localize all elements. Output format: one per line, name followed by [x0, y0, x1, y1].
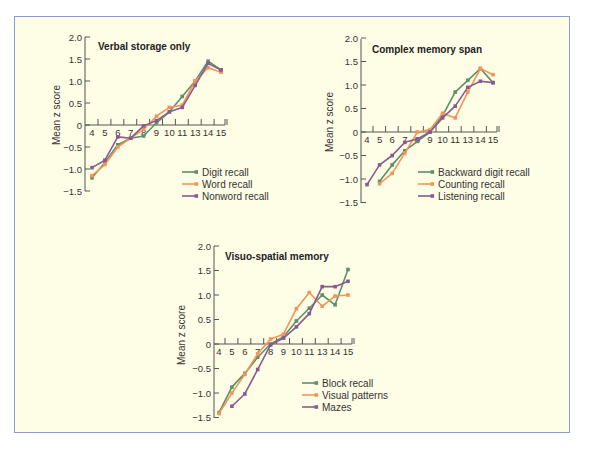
- x-tick-label: 13: [190, 127, 201, 138]
- data-point: [155, 114, 159, 118]
- data-point: [333, 303, 337, 307]
- chart-3: 2.01.51.00.50−0.5−1.0−1.5456789101113141…: [176, 241, 388, 424]
- legend-label: Word recall: [202, 179, 252, 190]
- data-point: [491, 73, 495, 77]
- data-point: [282, 332, 286, 336]
- x-tick-label: 15: [216, 127, 227, 138]
- charts-canvas: 2.01.51.00.50−0.5−1.0−1.5456789101113141…: [0, 0, 590, 452]
- y-tick-label: −1.5: [63, 186, 82, 197]
- y-tick-label: 0.5: [345, 103, 358, 114]
- data-point: [479, 79, 483, 83]
- y-axis-label: Mean z score: [324, 92, 335, 152]
- data-point: [390, 154, 394, 158]
- x-tick-label: 5: [229, 346, 234, 357]
- x-tick-label: 14: [330, 346, 341, 357]
- data-point: [103, 163, 107, 167]
- data-point: [217, 412, 221, 416]
- legend-label: Visual patterns: [322, 390, 388, 401]
- y-tick-label: −1.5: [192, 412, 211, 423]
- y-tick-label: 0: [353, 127, 358, 138]
- x-tick-label: 4: [89, 127, 94, 138]
- data-point: [453, 90, 457, 94]
- legend-label: Listening recall: [438, 191, 505, 202]
- legend-label: Digit recall: [202, 167, 249, 178]
- x-tick-label: 9: [281, 346, 286, 357]
- data-point: [466, 79, 470, 83]
- data-point: [346, 268, 350, 272]
- data-point: [256, 368, 260, 372]
- legend-label: Counting recall: [438, 179, 505, 190]
- x-tick-label: 6: [390, 134, 395, 145]
- data-point: [365, 183, 369, 187]
- data-point: [230, 404, 234, 408]
- y-tick-label: 2.0: [345, 33, 358, 44]
- y-axis-label: Mean z score: [176, 305, 187, 365]
- y-tick-label: 0.5: [198, 314, 211, 325]
- x-tick-label: 14: [475, 134, 486, 145]
- x-tick-label: 11: [450, 134, 460, 145]
- data-point: [168, 106, 172, 110]
- data-point: [295, 325, 299, 329]
- legend-label: Nonword recall: [202, 191, 269, 202]
- y-tick-label: 0.5: [69, 98, 82, 109]
- data-point: [269, 337, 273, 341]
- x-tick-label: 5: [102, 127, 107, 138]
- data-point: [403, 151, 407, 155]
- data-point: [193, 84, 197, 88]
- data-point: [416, 130, 420, 134]
- x-tick-label: 13: [317, 346, 328, 357]
- data-point: [466, 86, 470, 90]
- data-point: [295, 307, 299, 311]
- y-tick-label: 1.0: [69, 76, 82, 87]
- x-tick-label: 10: [437, 134, 448, 145]
- data-point: [466, 90, 470, 94]
- data-point: [428, 130, 432, 134]
- data-point: [491, 81, 495, 85]
- data-point: [453, 116, 457, 120]
- y-tick-label: 1.5: [198, 265, 211, 276]
- y-tick-label: −0.5: [63, 142, 82, 153]
- chart-title: Verbal storage only: [98, 41, 191, 52]
- data-point: [295, 319, 299, 323]
- data-point: [256, 352, 260, 356]
- x-tick-label: 11: [304, 346, 314, 357]
- data-point: [378, 182, 382, 186]
- y-tick-label: 0: [77, 120, 82, 131]
- y-tick-label: 1.5: [69, 54, 82, 65]
- y-tick-label: 1.0: [345, 80, 358, 91]
- x-tick-label: 9: [427, 134, 432, 145]
- data-point: [390, 172, 394, 176]
- data-point: [390, 163, 394, 167]
- data-point: [142, 134, 146, 138]
- data-point: [308, 312, 312, 316]
- data-point: [441, 111, 445, 115]
- data-point: [90, 174, 94, 178]
- data-point: [129, 136, 133, 140]
- x-tick-label: 9: [154, 127, 159, 138]
- data-point: [320, 285, 324, 289]
- x-tick-label: 13: [463, 134, 474, 145]
- data-point: [142, 124, 146, 128]
- y-axis-label: Mean z score: [51, 85, 62, 145]
- data-point: [90, 166, 94, 170]
- legend-label: Mazes: [322, 402, 351, 413]
- data-point: [116, 135, 120, 139]
- data-point: [333, 294, 337, 298]
- data-point: [181, 106, 185, 110]
- y-tick-label: 2.0: [198, 241, 211, 252]
- x-tick-label: 10: [291, 346, 302, 357]
- x-tick-label: 5: [377, 134, 382, 145]
- data-point: [219, 68, 223, 72]
- legend-label: Backward digit recall: [438, 167, 530, 178]
- y-tick-label: 2.0: [69, 32, 82, 43]
- legend-label: Block recall: [322, 378, 373, 389]
- data-point: [168, 110, 172, 114]
- data-point: [479, 67, 483, 71]
- data-point: [378, 163, 382, 167]
- data-point: [155, 119, 159, 123]
- y-tick-label: −1.0: [192, 388, 211, 399]
- data-point: [181, 95, 185, 99]
- data-point: [403, 141, 407, 145]
- data-point: [320, 293, 324, 297]
- data-point: [116, 145, 120, 149]
